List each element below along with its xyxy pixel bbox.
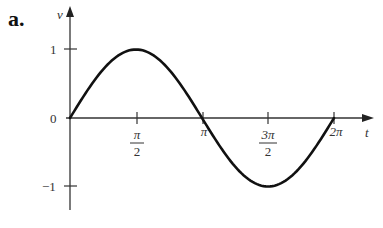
y-tick-label: −1 [42, 179, 56, 194]
x-tick-label-den: 2 [265, 144, 272, 159]
x-tick-label: 2π [329, 124, 343, 139]
x-tick-label-den: 2 [134, 144, 141, 159]
x-axis-arrow-icon [362, 114, 374, 122]
x-axis-label: t [365, 125, 369, 140]
y-axis-label: v [57, 7, 63, 22]
y-tick-label: 1 [50, 42, 57, 57]
x-tick-label-num: π [134, 127, 141, 142]
x-tick-label-num: 3π [260, 127, 275, 142]
panel-label: a. [8, 6, 25, 31]
sine-wave-chart: a. v t 1 0 −1 π 2 π 3π 2 2π [0, 0, 383, 228]
y-tick-label: 0 [50, 111, 57, 126]
y-axis-arrow-icon [66, 6, 74, 17]
